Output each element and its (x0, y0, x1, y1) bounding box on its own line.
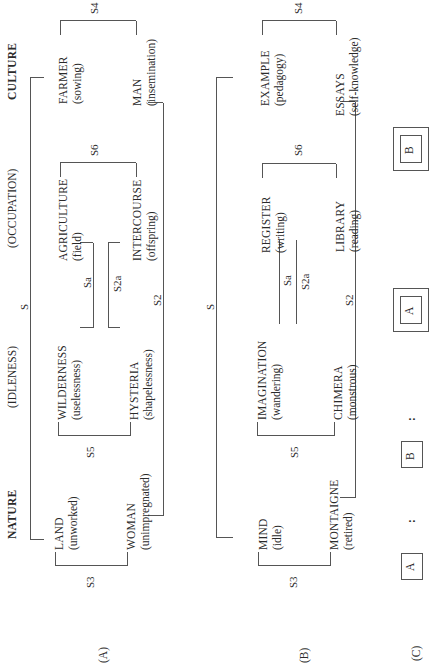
node-main: IMAGINATION (255, 341, 269, 421)
connector (127, 552, 128, 566)
connector (136, 163, 137, 177)
relation-s2a-label: S2a (299, 274, 312, 291)
node-main: LAND (52, 496, 66, 550)
connector (130, 422, 131, 436)
node-essays: ESSAYS (self-knowledge) (333, 37, 361, 116)
node-mind: MIND (idle) (256, 519, 284, 550)
connector (257, 422, 258, 436)
node-intercourse: INTERCOURSE (offspring) (130, 180, 158, 261)
node-wilderness: WILDERNESS (uselessness) (55, 345, 83, 420)
node-main: REGISTER (259, 196, 273, 253)
relation-sa-label: Sa (81, 277, 94, 288)
node-sub: (reading) (347, 201, 361, 252)
relation-line-s6 (262, 163, 336, 164)
node-sub: (sowing) (70, 56, 84, 104)
node-imagination: IMAGINATION (wandering) (255, 341, 283, 421)
relation-s-label: S (204, 304, 217, 310)
semiotic-square-figure: NATURE (IDLENESS) (OCCUPATION) CULTURE (… (0, 0, 440, 666)
relation-line-s6 (60, 162, 136, 163)
connector (55, 552, 56, 566)
connector (262, 21, 263, 35)
node-main: MONTAIGNE (327, 479, 341, 550)
header-nature: NATURE (6, 489, 19, 539)
relation-line-s2a (108, 243, 109, 328)
relation-s4-label: S4 (292, 2, 305, 14)
connector (60, 163, 61, 177)
node-library: LIBRARY (reading) (333, 201, 361, 252)
node-main: ESSAYS (333, 37, 347, 116)
node-sub: (retired) (341, 479, 355, 550)
relation-line-s5 (257, 435, 334, 436)
relation-line-s2a (296, 240, 297, 324)
node-example: EXAMPLE (pedagogy) (258, 50, 286, 106)
relation-s6-label: S6 (88, 144, 101, 156)
relation-line-s4 (262, 20, 336, 21)
relation-s4-label: S4 (88, 2, 101, 14)
relation-line-s2 (163, 103, 164, 516)
connector (336, 21, 337, 35)
connector (216, 537, 233, 538)
node-main: MIND (256, 519, 270, 550)
node-main: WOMAN (124, 473, 138, 550)
connector (258, 552, 259, 566)
connector (108, 242, 120, 243)
formula-separator: : (405, 519, 418, 523)
header-occupation: (OCCUPATION) (6, 169, 19, 248)
node-main: EXAMPLE (258, 50, 272, 106)
node-sub: (idle) (270, 519, 284, 550)
node-sub: (pedagogy) (272, 50, 286, 106)
relation-sa-label: Sa (281, 275, 294, 286)
connector (80, 327, 93, 328)
node-farmer: FARMER (sowing) (56, 56, 84, 104)
relation-s2a-label: S2a (111, 276, 124, 293)
formula-separator: : (405, 417, 418, 421)
panel-a-label: (A) (97, 647, 110, 663)
panel-b-label: (B) (298, 648, 311, 663)
node-agriculture: AGRICULTURE (field) (56, 179, 84, 261)
header-idleness: (IDLENESS) (6, 346, 19, 408)
node-sub: (offspring) (144, 180, 158, 261)
connector (30, 77, 44, 78)
node-chimera: CHIMERA (monstrous) (331, 364, 359, 420)
connector (58, 422, 59, 436)
relation-s2-label: S2 (151, 294, 164, 306)
formula-box-a-text: A (404, 563, 416, 571)
node-main: AGRICULTURE (56, 179, 70, 261)
relation-s2-label: S2 (343, 294, 356, 306)
header-culture: CULTURE (6, 43, 19, 100)
node-sub: (self-knowledge) (347, 37, 361, 116)
node-main: HYSTERIA (127, 349, 141, 420)
node-main: INTERCOURSE (130, 180, 144, 261)
relation-s6-label: S6 (292, 144, 305, 156)
relation-line-s3 (258, 565, 330, 566)
node-sub: (uselessness) (69, 345, 83, 420)
connector (216, 77, 233, 78)
connector (279, 323, 280, 324)
node-hysteria: HYSTERIA (shapelessness) (127, 349, 155, 420)
connector (108, 327, 120, 328)
node-land: LAND (unworked) (52, 496, 80, 550)
connector (262, 164, 263, 178)
relation-line-s3 (55, 565, 127, 566)
node-sub: (field) (70, 179, 84, 261)
node-sub: (unimpregnated) (138, 473, 152, 550)
formula-nested-box-a-text: A (403, 307, 415, 315)
connector (336, 164, 337, 178)
connector (334, 422, 335, 436)
node-main: CHIMERA (331, 364, 345, 420)
connector (60, 21, 61, 35)
node-sub: (shapelessness) (141, 349, 155, 420)
node-main: WILDERNESS (55, 345, 69, 420)
relation-line-s5 (58, 435, 130, 436)
connector (136, 21, 137, 35)
connector (330, 552, 331, 566)
relation-s3-label: S3 (287, 576, 300, 588)
relation-s3-label: S3 (84, 576, 97, 588)
node-register: REGISTER (writing) (259, 196, 287, 253)
node-sub: (monstrous) (345, 364, 359, 420)
relation-s-label: S (18, 304, 31, 310)
node-main: LIBRARY (333, 201, 347, 252)
node-sub: (wandering) (269, 341, 283, 421)
node-sub: (unworked) (66, 496, 80, 550)
panel-c-label: (C) (410, 646, 423, 661)
